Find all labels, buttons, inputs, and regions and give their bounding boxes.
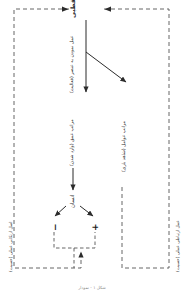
minus-sign-label: − [51,223,60,231]
figure-caption: شکل ۱ - نمودار [0,285,184,290]
edge-root-to-factors [86,52,126,82]
edge-human-to-minus [55,206,66,216]
root-node-label: هیچ قطبی [70,0,76,18]
diagram-vector-layer [0,0,184,298]
left-loop-label: اصل ارتکابی عملی (حسیت) [9,221,13,272]
plus-sign-label: + [91,223,100,231]
right-loop-arrowhead [105,7,112,12]
diagram-canvas: هیچ قطبی عمل نمودن به عنصر (فعالیت) مرات… [0,0,184,298]
figure-caption-wrap: شکل ۱ - نمودار [0,285,184,290]
right-feedback-loop [104,9,169,268]
right-loop-label: عمل ارتباطی عملی (حسیت) [176,220,180,272]
left-loop-arrowhead [62,7,69,12]
edge-label-factors: مراتب عوامل (شاهد بازی) [122,121,127,172]
edge-human-to-plus [80,206,93,216]
human-node-label: انسان [70,195,75,208]
sign-collector-dashed [54,232,95,268]
edge-label-activity: عمل نمودن به عنصر (فعالیت) [70,35,75,93]
edge-label-depth: مراتب عمق (وارد شدن) [70,119,75,166]
